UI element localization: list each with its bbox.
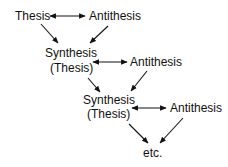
thesis-label: Thesis [15,9,50,23]
synthesis-subtitle-1: (Thesis) [50,61,93,75]
synthesis-label-1: Synthesis [45,46,97,60]
synthesis-subtitle-2: (Thesis) [87,107,130,121]
dialectic-diagram: Thesis Antithesis Synthesis (Thesis) Ant… [0,0,228,167]
synthesis-to-synthesis-arrow [88,78,100,92]
antithesis-label-1: Antithesis [89,9,141,23]
antithesis-label-3: Antithesis [170,101,222,115]
antithesis-to-etc-arrow [160,118,183,143]
thesis-to-synthesis-arrow [41,24,58,43]
antithesis-to-synthesis-arrow-2 [131,71,147,91]
antithesis-to-synthesis-arrow-1 [90,26,108,43]
antithesis-label-2: Antithesis [130,55,182,69]
synthesis-to-etc-arrow [129,124,148,143]
etc-label: etc. [143,146,162,160]
synthesis-label-2: Synthesis [83,93,135,107]
